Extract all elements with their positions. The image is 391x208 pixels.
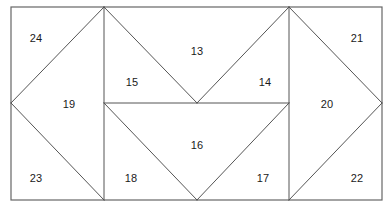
geometry-figure: 242113151419201623181722: [0, 0, 391, 208]
label-17: 17: [257, 173, 270, 184]
label-24: 24: [30, 33, 43, 44]
label-21: 21: [351, 33, 364, 44]
label-20: 20: [321, 99, 334, 110]
label-14: 14: [259, 77, 272, 88]
label-15: 15: [126, 77, 139, 88]
label-19: 19: [63, 99, 76, 110]
label-16: 16: [191, 140, 204, 151]
label-23: 23: [30, 173, 43, 184]
label-18: 18: [125, 173, 138, 184]
label-22: 22: [351, 173, 364, 184]
label-13: 13: [191, 46, 204, 57]
